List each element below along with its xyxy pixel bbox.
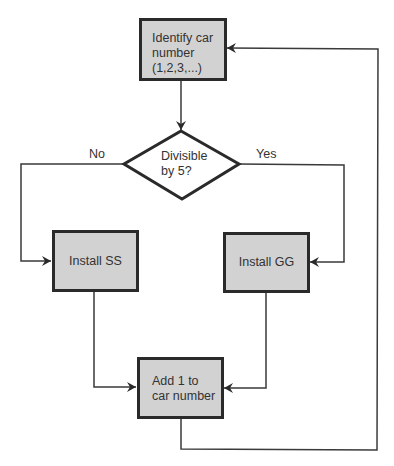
node-install-ss: Install SS bbox=[52, 230, 139, 292]
node-install-gg-label: Install GG bbox=[239, 255, 295, 270]
node-install-gg: Install GG bbox=[223, 232, 310, 293]
node-add-one-label: Add 1 to car number bbox=[152, 374, 215, 416]
node-install-ss-label: Install SS bbox=[69, 254, 122, 269]
edge-label-no: No bbox=[89, 147, 105, 161]
node-decision-label: Divisible by 5? bbox=[161, 149, 208, 179]
edge-install-ss-to-increment bbox=[94, 291, 136, 387]
node-identify-car-number-label: Identify car number (1,2,3,...) bbox=[152, 31, 213, 78]
edge-label-yes: Yes bbox=[256, 147, 276, 161]
node-add-one: Add 1 to car number bbox=[137, 357, 224, 419]
node-identify-car-number: Identify car number (1,2,3,...) bbox=[139, 18, 227, 81]
edge-install-gg-to-increment bbox=[224, 292, 266, 388]
